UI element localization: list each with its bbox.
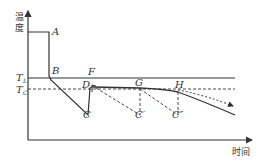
point-f-label: F: [87, 66, 96, 77]
cooling-curve-main: [28, 32, 93, 115]
y-axis-label-1: 温: [15, 12, 24, 22]
cooling-curve-growth: [93, 87, 235, 115]
point-c1-label: C′: [135, 109, 146, 120]
point-b-label: B: [51, 65, 59, 76]
dotted-curve: [178, 90, 233, 106]
dashed-d-c1: [96, 88, 140, 115]
y-axis-label-2: 度: [15, 22, 24, 33]
point-c-label: C: [83, 109, 91, 120]
point-a-label: A: [51, 26, 59, 37]
tc-label-sub: C: [23, 89, 28, 96]
point-h-label: H: [174, 79, 184, 90]
cooling-curve-diagram: 温 度 时间 T L T C A B C D F G H C′ C″: [0, 0, 265, 165]
point-g-label: G: [135, 77, 143, 88]
point-c2-label: C″: [172, 109, 184, 120]
point-d-label: D: [81, 79, 90, 90]
x-axis-label: 时间: [232, 146, 250, 157]
tl-label-sub: L: [22, 77, 27, 84]
